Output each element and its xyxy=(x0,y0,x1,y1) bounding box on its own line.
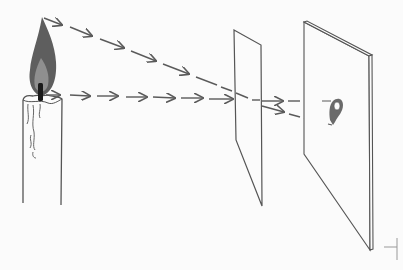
transparent-pane xyxy=(234,30,262,206)
image-spot-highlight xyxy=(334,102,340,110)
optics-diagram xyxy=(0,0,403,270)
screen-board xyxy=(304,21,373,250)
diagram-canvas xyxy=(0,0,403,270)
crop-mark xyxy=(384,238,397,260)
wick xyxy=(38,83,43,101)
ray-from-flame-tip xyxy=(44,18,260,100)
wax-drip xyxy=(27,104,40,150)
wax-drip-lower xyxy=(30,135,36,158)
candle-body xyxy=(23,95,62,205)
ray-from-flame-base xyxy=(46,95,233,99)
candle xyxy=(23,17,62,205)
